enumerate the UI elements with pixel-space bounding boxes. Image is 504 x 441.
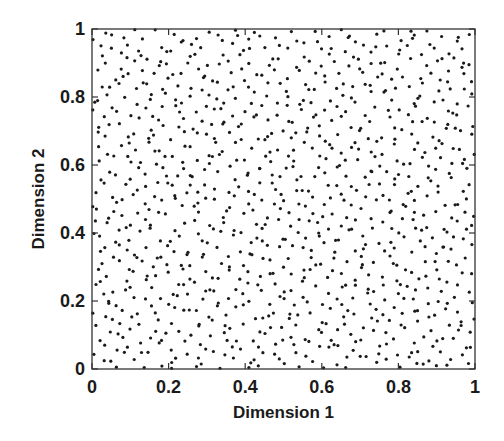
data-point [176, 294, 179, 297]
data-point [340, 152, 343, 155]
data-point [197, 67, 200, 70]
data-point [354, 284, 357, 287]
data-point [327, 184, 330, 187]
data-point [223, 353, 226, 356]
data-point [440, 57, 443, 60]
data-point [400, 323, 403, 326]
data-point [354, 279, 357, 282]
data-point [354, 218, 357, 221]
data-point [232, 356, 235, 359]
data-point [438, 277, 441, 280]
data-point [435, 364, 438, 367]
data-point [268, 258, 271, 261]
data-point [216, 170, 219, 173]
data-point [381, 220, 384, 223]
data-point [308, 219, 311, 222]
data-point [272, 312, 275, 315]
data-point [276, 102, 279, 105]
data-point [234, 178, 237, 181]
data-point [204, 348, 207, 351]
data-point [341, 94, 344, 97]
data-point [172, 250, 175, 253]
data-point [327, 292, 330, 295]
data-point [266, 118, 269, 121]
data-point [195, 110, 198, 113]
data-point [258, 181, 261, 184]
data-point [156, 256, 159, 259]
data-point [360, 266, 363, 269]
data-point [170, 349, 173, 352]
data-point [333, 343, 336, 346]
data-point [401, 75, 404, 78]
data-point [367, 137, 370, 140]
data-point [401, 217, 404, 220]
data-point [114, 78, 117, 81]
data-point [189, 174, 192, 177]
data-point [160, 339, 163, 342]
data-point [274, 36, 277, 39]
data-point [318, 154, 321, 157]
data-point [215, 246, 218, 249]
data-point [385, 358, 388, 361]
data-point [335, 184, 338, 187]
data-point [263, 138, 266, 141]
data-point [118, 259, 121, 262]
data-point [98, 235, 101, 238]
data-point [388, 198, 391, 201]
data-point [103, 359, 106, 362]
data-point [393, 126, 396, 129]
data-point [111, 106, 114, 109]
data-point [138, 230, 141, 233]
data-point [154, 274, 157, 277]
data-point [423, 151, 426, 154]
data-point [469, 346, 472, 349]
data-point [273, 68, 276, 71]
data-point [307, 190, 310, 193]
data-point [120, 68, 123, 71]
data-point [320, 47, 323, 50]
data-point [361, 234, 364, 237]
data-point [453, 296, 456, 299]
data-point [188, 264, 191, 267]
data-point [171, 155, 174, 158]
data-point [174, 104, 177, 107]
data-point [393, 142, 396, 145]
data-point [413, 148, 416, 151]
data-point [433, 100, 436, 103]
y-tick-label: 0.6 [60, 155, 85, 175]
data-point [359, 338, 362, 341]
data-point [176, 174, 179, 177]
data-point [456, 283, 459, 286]
data-point [331, 212, 334, 215]
data-point [287, 120, 290, 123]
data-point [392, 262, 395, 265]
plot-area-border [92, 29, 475, 369]
data-point [364, 176, 367, 179]
data-point [126, 44, 129, 47]
data-point [107, 217, 110, 220]
data-point [125, 280, 128, 283]
data-point [200, 362, 203, 365]
data-point [303, 55, 306, 58]
data-point [296, 313, 299, 316]
data-point [146, 351, 149, 354]
data-point [101, 85, 104, 88]
data-point [370, 170, 373, 173]
data-point [396, 159, 399, 162]
data-point [378, 165, 381, 168]
data-point [127, 135, 130, 138]
data-point [111, 318, 114, 321]
data-point [382, 29, 385, 32]
data-point [330, 147, 333, 150]
data-point [342, 82, 345, 85]
data-point [310, 249, 313, 252]
data-point [369, 84, 372, 87]
data-point [145, 82, 148, 85]
data-point [171, 73, 174, 76]
data-point [233, 194, 236, 197]
data-point [208, 31, 211, 34]
data-point [346, 309, 349, 312]
data-point [209, 334, 212, 337]
data-point [407, 113, 410, 116]
data-point [227, 60, 230, 63]
